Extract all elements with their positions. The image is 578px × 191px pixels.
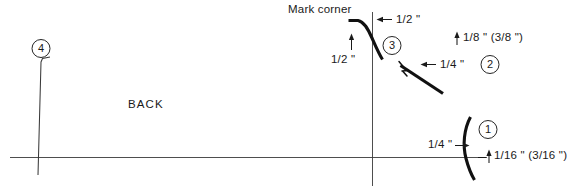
technical-drawing-canvas: Mark corner BACK 1/2 " 1/2 " 1/8 " (3/8 … bbox=[0, 0, 578, 191]
callout-3-circle[interactable] bbox=[383, 37, 401, 55]
dimension-label-sixteenth: 1/16 " (3/16 ") bbox=[494, 150, 567, 162]
back-region-label: BACK bbox=[128, 99, 164, 111]
callout-1-arc-stroke bbox=[464, 117, 474, 180]
dimension-label-quarter-mid: 1/4 " bbox=[440, 59, 464, 71]
arrow-left-quarter-mid bbox=[421, 62, 437, 67]
arrow-up-half-left bbox=[349, 34, 354, 51]
callout-4-circle[interactable] bbox=[32, 40, 50, 58]
callout-1-circle[interactable] bbox=[479, 121, 497, 139]
arrow-left-half-top bbox=[377, 17, 393, 22]
callout-circles bbox=[32, 37, 499, 139]
callout-2-diagonal-stroke bbox=[401, 66, 444, 94]
drawing-vector-layer bbox=[0, 0, 578, 191]
dimension-label-eighth: 1/8 " (3/8 ") bbox=[463, 32, 523, 44]
dimension-label-left-half: 1/2 " bbox=[331, 54, 355, 66]
arrow-right-quarter-low bbox=[455, 143, 470, 148]
arrow-up-eighth bbox=[454, 32, 459, 46]
arrow-up-sixteenth bbox=[486, 150, 491, 164]
dimension-label-top-half: 1/2 " bbox=[396, 14, 420, 26]
dimension-label-quarter-low: 1/4 " bbox=[428, 139, 452, 151]
callout-2-circle[interactable] bbox=[481, 56, 499, 74]
mark-corner-label: Mark corner bbox=[288, 4, 352, 16]
